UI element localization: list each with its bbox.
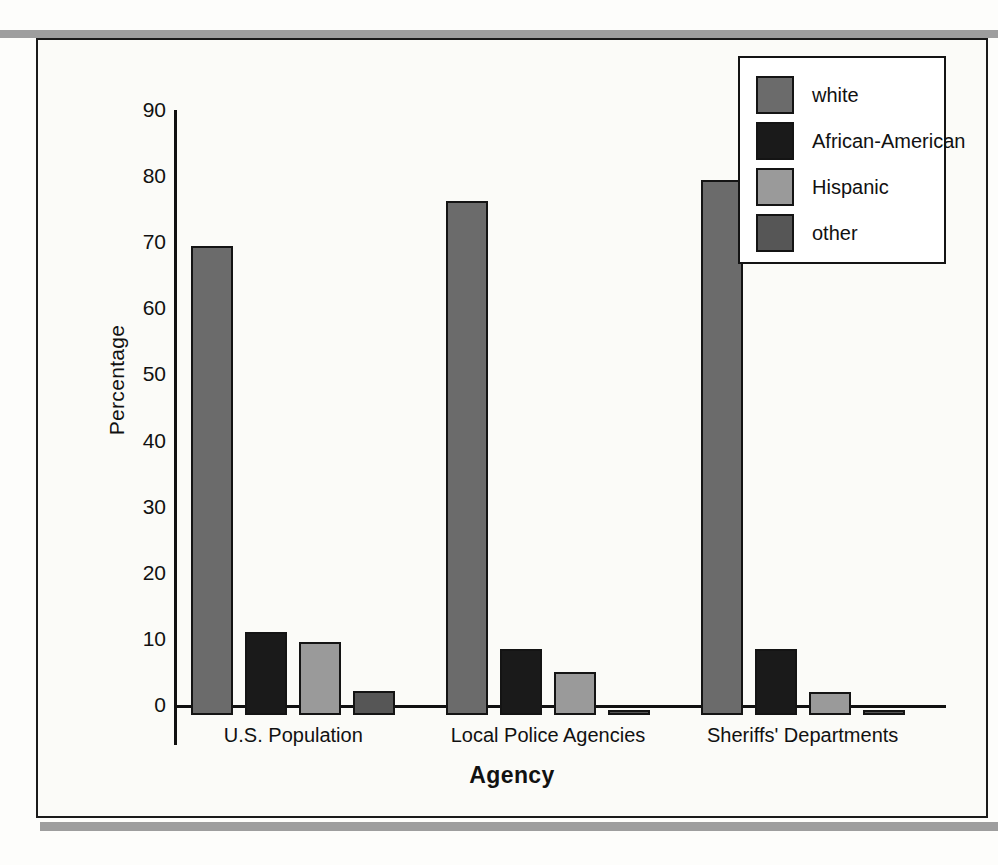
x-category-label: Sheriffs' Departments xyxy=(707,724,898,747)
legend-swatch-icon xyxy=(756,122,794,160)
bar-hispanic-1 xyxy=(299,642,341,715)
x-axis-title: Agency xyxy=(469,762,554,789)
legend-item: other xyxy=(756,210,944,256)
bar-hispanic-3 xyxy=(809,692,851,715)
bar-white-3 xyxy=(701,180,743,716)
plot-area: 0102030405060708090 Percentage U.S. Popu… xyxy=(38,40,986,816)
legend-label: Hispanic xyxy=(812,176,889,199)
y-tick-label: 10 xyxy=(120,627,166,651)
chart-page: 0102030405060708090 Percentage U.S. Popu… xyxy=(0,0,998,865)
y-tick-label: 30 xyxy=(120,495,166,519)
bar-african-american-2 xyxy=(500,649,542,715)
legend-label: African-American xyxy=(812,130,965,153)
y-tick-label: 0 xyxy=(120,693,166,717)
y-axis-title: Percentage xyxy=(105,325,129,435)
legend-label: other xyxy=(812,222,858,245)
bar-african-american-1 xyxy=(245,632,287,715)
bar-other-1 xyxy=(353,691,395,715)
y-axis-title-container: Percentage xyxy=(124,290,148,470)
legend-item: white xyxy=(756,72,944,118)
x-category-label: U.S. Population xyxy=(224,724,363,747)
y-axis-line xyxy=(174,110,177,745)
x-category-label: Local Police Agencies xyxy=(451,724,646,747)
legend-swatch-icon xyxy=(756,76,794,114)
legend-swatch-icon xyxy=(756,214,794,252)
legend-label: white xyxy=(812,84,859,107)
bottom-rule-divider xyxy=(40,822,998,831)
bar-other-3 xyxy=(863,710,905,715)
legend: whiteAfrican-AmericanHispanicother xyxy=(738,56,946,264)
y-tick-label: 80 xyxy=(120,164,166,188)
y-tick-label: 20 xyxy=(120,561,166,585)
y-tick-label: 90 xyxy=(120,98,166,122)
legend-item: Hispanic xyxy=(756,164,944,210)
bar-african-american-3 xyxy=(755,649,797,715)
y-tick-label: 70 xyxy=(120,230,166,254)
bar-hispanic-2 xyxy=(554,672,596,715)
bar-white-2 xyxy=(446,201,488,715)
bar-other-2 xyxy=(608,710,650,715)
top-rule-divider xyxy=(0,30,998,38)
bar-white-1 xyxy=(191,246,233,715)
legend-item: African-American xyxy=(756,118,944,164)
legend-swatch-icon xyxy=(756,168,794,206)
chart-frame: 0102030405060708090 Percentage U.S. Popu… xyxy=(36,38,988,818)
